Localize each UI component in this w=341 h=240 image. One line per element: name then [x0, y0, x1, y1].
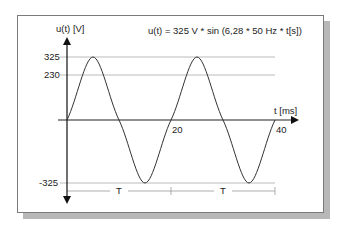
- y-tick-230: 230: [44, 69, 60, 80]
- y-axis-arrow-up-icon: [63, 37, 71, 45]
- x-tick-40: 40: [276, 124, 287, 135]
- period-label-1: T: [116, 185, 122, 196]
- y-tick-neg325: -325: [39, 177, 58, 188]
- formula-label: u(t) = 325 V * sin (6,28 * 50 Hz * t[s]): [148, 25, 302, 36]
- y-tick-325: 325: [44, 51, 60, 62]
- period-markers: [67, 187, 275, 195]
- period-label-2: T: [220, 185, 226, 196]
- x-axis-arrow-icon: [291, 116, 299, 124]
- y-axis-arrow-down-icon: [63, 196, 71, 204]
- x-axis-label: t [ms]: [274, 105, 297, 116]
- x-tick-20: 20: [172, 124, 183, 135]
- y-axis-label: u(t) [V]: [56, 23, 85, 34]
